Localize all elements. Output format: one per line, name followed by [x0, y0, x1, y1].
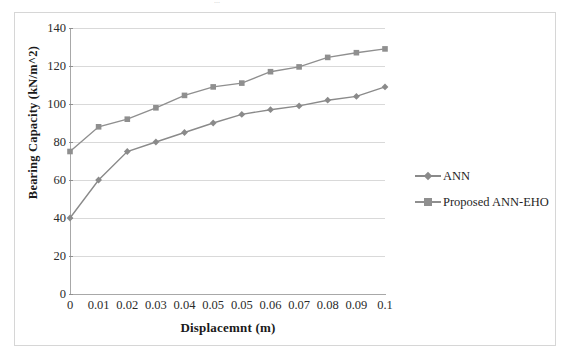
data-point-square [382, 46, 388, 52]
series-ann [67, 84, 389, 222]
data-point-square [268, 69, 274, 75]
series-line [70, 49, 385, 152]
data-point-square [296, 64, 302, 70]
data-point-diamond [153, 139, 160, 146]
series-proposed-ann-eho [67, 46, 388, 154]
data-point-diamond [238, 111, 245, 118]
legend-item-proposed-ann-eho[interactable]: Proposed ANN-EHO [415, 189, 555, 215]
data-point-square [67, 149, 73, 155]
chart-legend: ANNProposed ANN-EHO [415, 163, 555, 215]
data-point-square [182, 93, 188, 99]
data-point-square [325, 55, 331, 61]
data-point-diamond [210, 120, 217, 127]
legend-square-icon [415, 196, 441, 208]
legend-item-label: ANN [443, 169, 470, 184]
data-point-diamond [296, 103, 303, 110]
data-point-diamond [324, 97, 331, 104]
data-point-square [125, 116, 131, 122]
y-axis-title: Bearing Capacity (kN/m^2) [26, 8, 41, 238]
series-line [70, 87, 385, 218]
data-point-diamond [382, 84, 389, 91]
legend-diamond-icon [415, 170, 441, 182]
data-point-square [210, 84, 216, 90]
data-point-square [239, 80, 245, 86]
data-point-diamond [353, 93, 360, 100]
data-point-diamond [267, 106, 274, 113]
data-point-diamond [181, 129, 188, 136]
data-point-square [153, 105, 159, 111]
data-point-square [354, 50, 360, 56]
data-point-square [96, 124, 102, 130]
x-axis-title: Displacemnt (m) [70, 320, 386, 336]
legend-item-label: Proposed ANN-EHO [443, 195, 549, 210]
legend-item-ann[interactable]: ANN [415, 163, 555, 189]
